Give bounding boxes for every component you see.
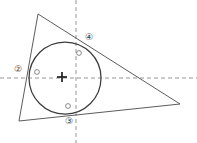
label-4: ④	[85, 32, 93, 42]
geometry-canvas: ② ④ ③	[0, 0, 197, 143]
geometry-diagram: ② ④ ③	[0, 0, 197, 143]
label-3: ③	[65, 116, 73, 126]
label-2: ②	[14, 64, 22, 74]
